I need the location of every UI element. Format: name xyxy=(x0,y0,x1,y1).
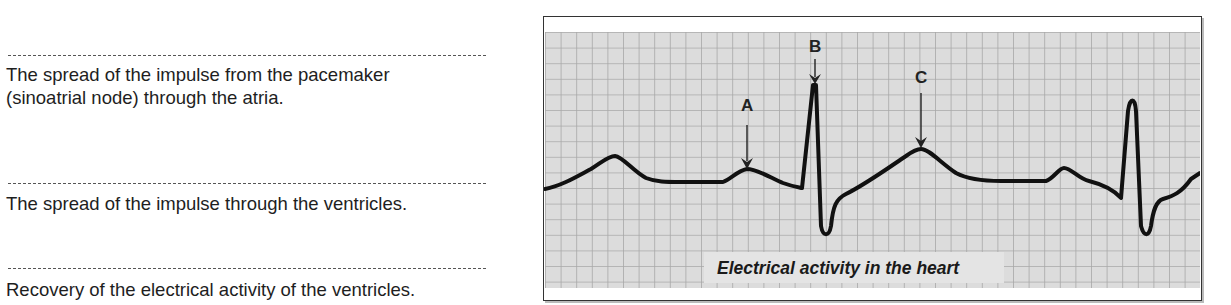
answer-blank-2[interactable] xyxy=(8,183,486,184)
ecg-chart: Electrical activity in the heart A B C xyxy=(544,17,1200,299)
ecg-diagram: Electrical activity in the heart A B C xyxy=(543,16,1202,301)
label-a: A xyxy=(741,96,753,115)
label-c: C xyxy=(915,68,927,87)
description-1-line-2: (sinoatrial node) through the atria. xyxy=(6,86,284,109)
description-1-line-1: The spread of the impulse from the pacem… xyxy=(6,63,390,86)
answer-blank-3[interactable] xyxy=(8,268,486,269)
label-b: B xyxy=(809,37,821,56)
description-3-line-1: Recovery of the electrical activity of t… xyxy=(6,278,415,301)
answer-blank-1[interactable] xyxy=(8,55,486,56)
ecg-grid xyxy=(545,32,1200,288)
description-2-line-1: The spread of the impulse through the ve… xyxy=(6,192,407,215)
diagram-caption: Electrical activity in the heart xyxy=(717,258,960,278)
